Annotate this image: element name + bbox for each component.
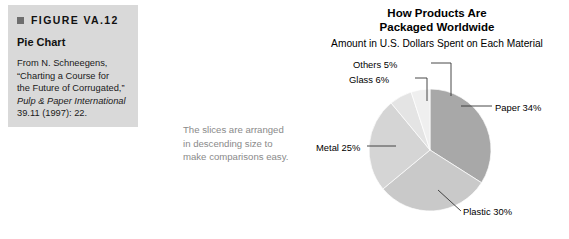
slice-label-others: Others 5%	[353, 59, 397, 70]
pie-chart-svg	[305, 0, 569, 239]
figure-credit-line-3: the Future of Corrugated,”	[17, 82, 130, 95]
annotation-line-3: make comparisons easy.	[183, 150, 305, 164]
figure-credit: From N. Schneegens, “Charting a Course f…	[17, 57, 130, 120]
annotation-line-1: The slices are arranged	[183, 123, 305, 137]
pie-chart-plot: Others 5% Glass 6% Paper 34% Metal 25% P…	[305, 0, 569, 239]
figure-credit-line-2: “Charting a Course for	[17, 70, 130, 83]
figure-credit-source: Pulp & Paper International	[17, 95, 130, 108]
pie-slices-group	[369, 89, 491, 211]
figure-header: FIGURE VA.12	[17, 14, 130, 26]
slice-label-plastic: Plastic 30%	[463, 206, 512, 217]
slice-label-metal: Metal 25%	[316, 142, 360, 153]
figure-credit-line-1: From N. Schneegens,	[17, 57, 130, 70]
annotation-note: The slices are arranged in descending si…	[183, 123, 305, 164]
slice-label-paper: Paper 34%	[495, 102, 541, 113]
figure-credit-line-4: 39.11 (1997): 22.	[17, 107, 130, 120]
figure-number: FIGURE VA.12	[31, 14, 119, 26]
square-bullet-icon	[17, 17, 24, 24]
pie-chart-figure: How Products Are Packaged Worldwide Amou…	[305, 0, 569, 239]
figure-title: Pie Chart	[17, 36, 130, 48]
slice-label-glass: Glass 6%	[349, 74, 389, 85]
figure-caption-box: FIGURE VA.12 Pie Chart From N. Schneegen…	[8, 5, 138, 127]
annotation-line-2: in descending size to	[183, 137, 305, 151]
